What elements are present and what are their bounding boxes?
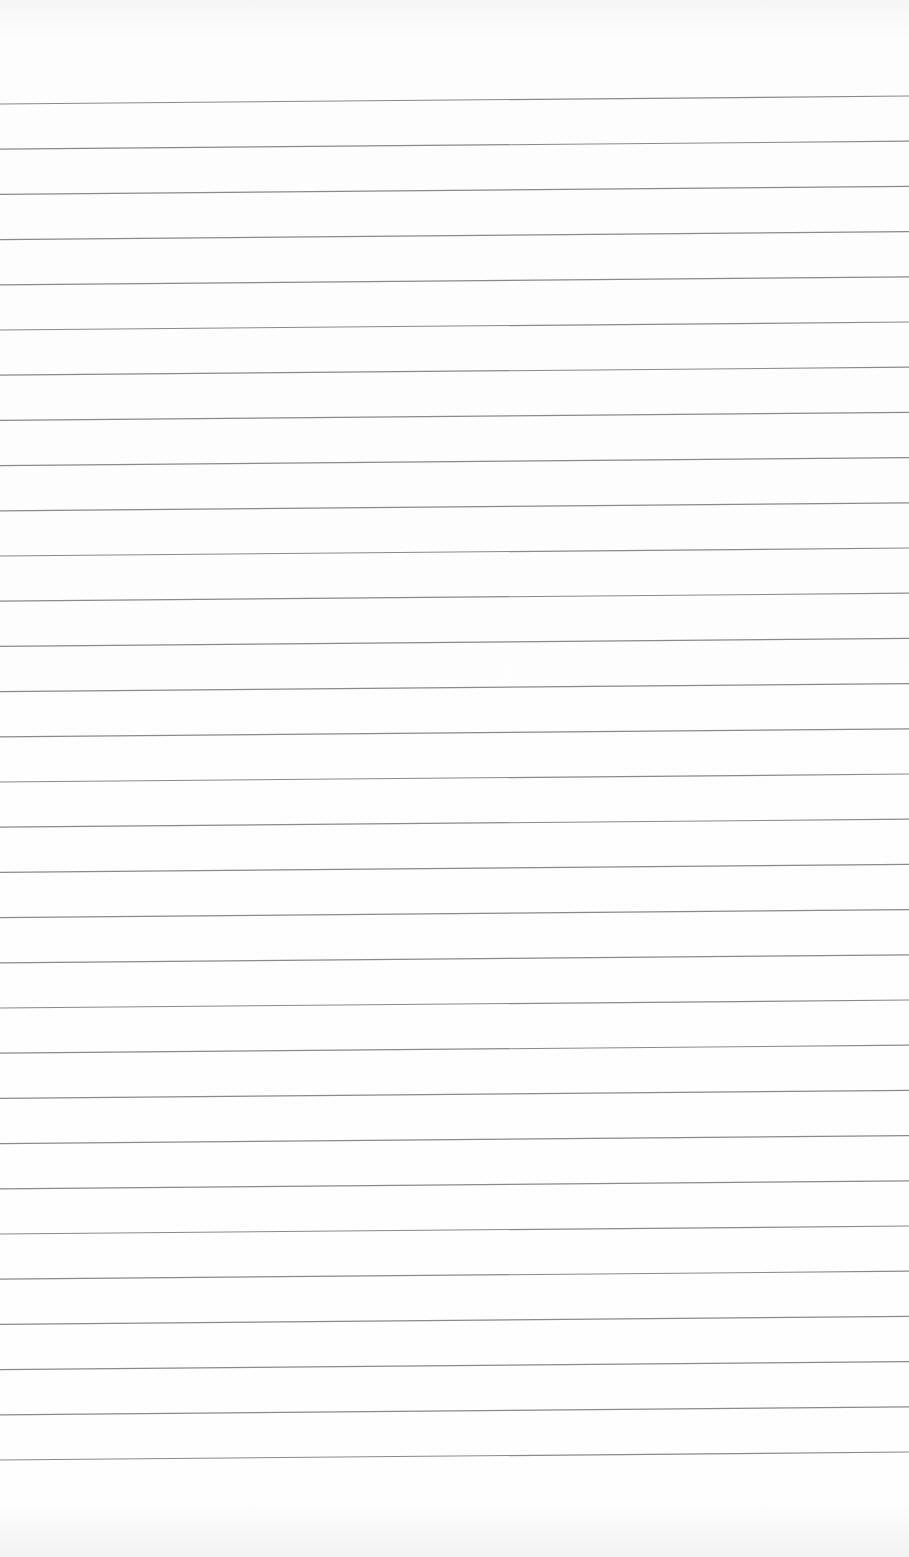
ruled-line	[0, 1407, 909, 1415]
ruled-line	[0, 729, 909, 737]
ruled-line	[0, 1045, 909, 1053]
ruled-line	[0, 638, 909, 646]
ruled-line	[0, 684, 909, 692]
ruled-line	[0, 367, 909, 375]
ruled-line	[0, 186, 909, 194]
ruled-line	[0, 548, 909, 556]
ruled-line	[0, 277, 909, 285]
ruled-line	[0, 910, 909, 918]
ruled-line	[0, 1362, 909, 1370]
ruled-line	[0, 412, 909, 420]
ruled-line	[0, 593, 909, 601]
ruled-lines	[0, 0, 909, 1557]
ruled-line	[0, 96, 909, 104]
ruled-line	[0, 322, 909, 330]
ruled-line	[0, 774, 909, 782]
ruled-line	[0, 1181, 909, 1189]
ruled-line	[0, 503, 909, 511]
ruled-line	[0, 1452, 909, 1460]
ruled-line	[0, 955, 909, 963]
ruled-line	[0, 141, 909, 149]
ruled-line	[0, 1226, 909, 1234]
ruled-line	[0, 458, 909, 466]
ruled-line	[0, 864, 909, 872]
ruled-line	[0, 1136, 909, 1144]
ruled-line	[0, 819, 909, 827]
ruled-line	[0, 232, 909, 240]
ruled-line	[0, 1316, 909, 1324]
ruled-line	[0, 1090, 909, 1098]
ruled-line	[0, 1271, 909, 1279]
ruled-line	[0, 1000, 909, 1008]
lined-paper-sheet	[0, 0, 909, 1557]
